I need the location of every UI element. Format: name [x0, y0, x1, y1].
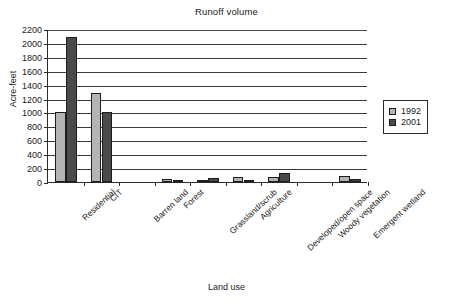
legend-item: 2001	[389, 118, 421, 127]
bar	[162, 179, 173, 182]
x-axis-tick	[368, 182, 369, 186]
dark-gray-swatch-icon	[389, 119, 396, 126]
y-axis-tick	[44, 44, 48, 45]
legend-item: 1992	[389, 107, 421, 116]
y-axis-tick	[44, 155, 48, 156]
y-axis-tick-label: 1400	[22, 81, 42, 91]
bar	[208, 178, 219, 182]
chart-legend: 1992 2001	[383, 100, 428, 134]
x-axis-title: Land use	[0, 282, 453, 292]
y-axis-tick-label: 2000	[22, 39, 42, 49]
y-axis-tick	[44, 58, 48, 59]
y-axis-tick-label: 200	[27, 164, 42, 174]
bar	[244, 180, 255, 182]
gridline	[48, 44, 367, 45]
bar	[102, 112, 113, 182]
legend-label: 1992	[401, 107, 421, 116]
x-axis-tick	[226, 182, 227, 186]
y-axis-tick	[44, 183, 48, 184]
y-axis-title: Acre-feet	[8, 54, 18, 124]
bar	[173, 180, 184, 182]
bar	[197, 180, 208, 182]
y-axis-tick-label: 600	[27, 136, 42, 146]
y-axis-tick	[44, 113, 48, 114]
bar	[66, 37, 77, 182]
legend-label: 2001	[401, 118, 421, 127]
gridline	[48, 72, 367, 73]
x-axis-tick	[119, 182, 120, 186]
chart-title: Runoff volume	[0, 6, 453, 17]
y-axis-tick-label: 0	[37, 178, 42, 188]
x-axis-tick	[190, 182, 191, 186]
y-axis-tick-label: 800	[27, 122, 42, 132]
y-axis-tick	[44, 30, 48, 31]
gridline	[48, 30, 367, 31]
gridline	[48, 86, 367, 87]
bar	[55, 112, 66, 182]
y-axis-tick	[44, 141, 48, 142]
gridline	[48, 58, 367, 59]
y-axis-tick-label: 1200	[22, 95, 42, 105]
y-axis-tick-label: 1000	[22, 108, 42, 118]
y-axis-tick	[44, 169, 48, 170]
bar	[268, 177, 279, 182]
bar	[91, 93, 102, 182]
light-gray-swatch-icon	[389, 108, 396, 115]
y-axis-tick	[44, 127, 48, 128]
x-axis-tick	[84, 182, 85, 186]
plot-area: 0200400600800100012001400160018002000220…	[47, 30, 367, 183]
y-axis-tick	[44, 86, 48, 87]
bar	[233, 177, 244, 182]
x-axis-tick	[332, 182, 333, 186]
y-axis-tick	[44, 100, 48, 101]
y-axis-tick-label: 1600	[22, 67, 42, 77]
x-axis-tick	[261, 182, 262, 186]
bar	[350, 179, 361, 182]
y-axis-tick	[44, 72, 48, 73]
y-axis-tick-label: 400	[27, 150, 42, 160]
x-axis-tick	[297, 182, 298, 186]
y-axis-tick-label: 1800	[22, 53, 42, 63]
y-axis-tick-label: 2200	[22, 25, 42, 35]
x-axis-tick	[155, 182, 156, 186]
bar	[279, 173, 290, 182]
runoff-volume-chart: Runoff volume Acre-feet 0200400600800100…	[0, 0, 453, 307]
bar	[339, 176, 350, 182]
